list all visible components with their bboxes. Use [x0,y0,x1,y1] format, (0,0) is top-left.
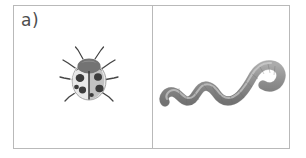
ladybug-antennae [76,47,104,59]
ladybug-illustration [58,44,120,110]
panel-frame: a) [13,5,290,149]
earthworm-illustration [159,54,287,114]
cell-ladybug: a) [14,6,153,148]
figure-panel: a) [0,0,306,158]
panel-label: a) [21,10,39,30]
cell-worm [153,6,289,148]
